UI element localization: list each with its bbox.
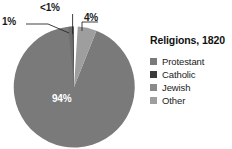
legend-label-jewish: Jewish bbox=[162, 81, 190, 94]
pie-label-protestant: 94% bbox=[52, 93, 71, 104]
pie-label-catholic: 4% bbox=[84, 12, 98, 23]
legend-label-protestant: Protestant bbox=[162, 55, 204, 68]
legend-swatch-icon-catholic bbox=[150, 71, 157, 78]
legend-label-other: Other bbox=[162, 94, 185, 107]
pie-chart-plot-area: 1% <1% 4% 94% bbox=[0, 0, 148, 149]
legend-item-jewish: Jewish bbox=[150, 81, 232, 94]
legend-item-other: Other bbox=[150, 94, 232, 107]
legend-item-catholic: Catholic bbox=[150, 68, 232, 81]
legend-item-list: Protestant Catholic Jewish Other bbox=[150, 55, 232, 107]
pie-label-jewish: <1% bbox=[40, 2, 60, 13]
legend-swatch-icon-jewish bbox=[150, 84, 157, 91]
legend-swatch-icon-protestant bbox=[150, 58, 157, 65]
pie-chart-svg bbox=[0, 0, 148, 149]
pie-label-other: 1% bbox=[2, 16, 16, 27]
pie-slice-protestant bbox=[14, 27, 135, 148]
legend-title: Religions, 1820 bbox=[150, 34, 225, 46]
legend-swatch-icon-other bbox=[150, 97, 157, 104]
pie-chart-figure: 1% <1% 4% 94% Religions, 1820 Protestant… bbox=[0, 0, 232, 149]
chart-legend: Religions, 1820 Protestant Catholic Jewi… bbox=[148, 0, 232, 149]
legend-item-protestant: Protestant bbox=[150, 55, 232, 68]
legend-label-catholic: Catholic bbox=[162, 68, 196, 81]
